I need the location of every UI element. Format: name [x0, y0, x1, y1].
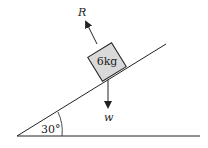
normal-force-arrow	[86, 22, 97, 44]
angle-label: 30°	[41, 123, 61, 136]
incline-diagram: 30° 6kg R w	[0, 0, 208, 148]
normal-force-label: R	[77, 6, 86, 19]
block-label: 6kg	[97, 55, 118, 68]
weight-force-label: w	[104, 111, 114, 124]
